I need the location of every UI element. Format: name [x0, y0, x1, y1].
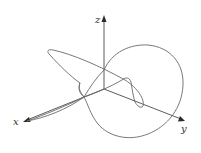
y-axis: [104, 89, 181, 119]
parametric-curve: [27, 45, 183, 138]
x-axis-label: x: [13, 116, 19, 127]
z-arrowhead-icon: [102, 15, 107, 22]
x-arrowhead-icon: [23, 117, 31, 122]
space-curve-diagram: z x y: [0, 0, 201, 153]
y-axis-label: y: [180, 123, 187, 134]
z-axis-label: z: [94, 14, 101, 25]
curve-x-arm: [27, 83, 84, 121]
y-arrowhead-icon: [178, 116, 185, 122]
